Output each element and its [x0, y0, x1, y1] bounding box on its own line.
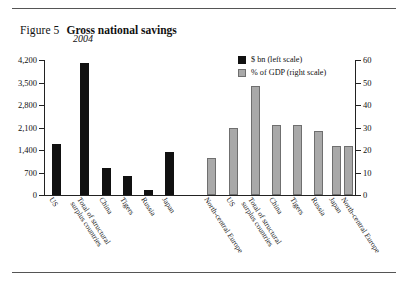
left-tick-label: 3,500 — [18, 78, 37, 87]
figure-heading: Figure 5Gross national savings — [20, 20, 177, 38]
bar-pct_gdp-tigers — [293, 125, 302, 195]
x-axis-label: China — [267, 196, 284, 216]
left-tick-label: 1,400 — [18, 146, 37, 155]
figure-subtitle: 2004 — [73, 33, 93, 44]
bar-usd_bn-china — [102, 168, 111, 195]
bar-usd_bn-us — [52, 144, 61, 195]
x-axis-label: North-central Europe — [202, 196, 244, 255]
x-axis-label: US — [47, 196, 59, 208]
left-tick-label: 2,800 — [18, 101, 37, 110]
left-tick-label: 0 — [33, 191, 37, 200]
right-tick-label: 50 — [363, 78, 372, 87]
bar-pct_gdp-japan — [332, 146, 341, 196]
x-axis-label: Japan — [160, 196, 176, 215]
right-tick-mark — [356, 195, 361, 196]
left-tick-label: 2,100 — [18, 123, 37, 132]
plot-area: 4,2003,5002,8002,1001,4007000 6050403020… — [44, 60, 356, 196]
right-tick-mark — [356, 105, 361, 106]
x-axis-label: China — [97, 196, 114, 216]
bar-usd_bn-tigers — [123, 176, 132, 195]
right-tick-label: 40 — [363, 101, 372, 110]
right-tick-mark — [356, 173, 361, 174]
right-tick-mark — [356, 150, 361, 151]
left-tick-label: 4,200 — [18, 56, 37, 65]
right-tick-mark — [356, 128, 361, 129]
bar-usd_bn-total-of-structural-surplus-countries — [80, 63, 89, 195]
x-axis-label: Tigers — [288, 196, 305, 216]
right-tick-label: 30 — [363, 123, 372, 132]
figure-number: Figure 5 — [20, 24, 59, 36]
right-tick-label: 60 — [363, 56, 372, 65]
x-axis-label: Russia — [309, 196, 327, 217]
bar-usd_bn-japan — [165, 152, 174, 195]
left-tick-label: 700 — [24, 168, 37, 177]
figure-container: Figure 5Gross national savings 2004 $ bn… — [0, 0, 408, 286]
right-tick-mark — [356, 60, 361, 61]
x-axis-label: Tigers — [118, 196, 135, 216]
bar-pct_gdp-total-of-structural-surplus-countries — [251, 86, 260, 195]
bar-pct_gdp-russia — [314, 131, 323, 195]
right-tick-mark — [356, 83, 361, 84]
right-tick-label: 10 — [363, 168, 372, 177]
bar-pct_gdp-china — [272, 125, 281, 195]
bottom-divider — [12, 272, 396, 273]
x-axis-label: US — [224, 196, 236, 208]
top-divider — [12, 8, 396, 9]
bar-usd_bn-north-central-europe — [207, 158, 216, 195]
bar-group — [44, 60, 356, 196]
x-axis-label: Russia — [139, 196, 157, 217]
bar-pct_gdp-us — [229, 128, 238, 196]
right-tick-label: 20 — [363, 146, 372, 155]
right-tick-label: 0 — [363, 191, 367, 200]
x-axis-label: North-central Europe — [339, 196, 381, 255]
bar-usd_bn-russia — [144, 190, 153, 195]
bar-pct_gdp-north-central-europe — [344, 146, 353, 196]
